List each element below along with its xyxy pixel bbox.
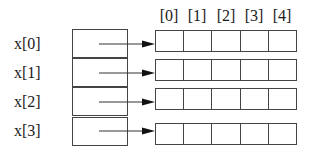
- array-row-2: [155, 88, 297, 110]
- array-row-0: [155, 30, 297, 52]
- array-row-3: [155, 123, 297, 145]
- array-cell: [212, 60, 240, 80]
- array-row-1: [155, 59, 297, 81]
- array-cell: [212, 124, 240, 144]
- array-cell: [184, 124, 212, 144]
- array-cell: [269, 60, 296, 80]
- row-label-2: x[2]: [14, 93, 54, 111]
- array-cell: [156, 124, 184, 144]
- array-cell: [156, 31, 184, 51]
- array-cell: [269, 31, 296, 51]
- arrow-icon: [99, 69, 155, 77]
- row-label-0: x[0]: [14, 35, 54, 53]
- array-cell: [241, 60, 269, 80]
- row-label-3: x[3]: [14, 122, 54, 140]
- array-cell: [184, 89, 212, 109]
- row-label-1: x[1]: [14, 64, 54, 82]
- array-cell: [269, 89, 296, 109]
- array-cell: [156, 60, 184, 80]
- column-label-4: [4]: [268, 7, 296, 25]
- array-cell: [184, 60, 212, 80]
- column-label-1: [1]: [183, 7, 211, 25]
- array-cell: [212, 89, 240, 109]
- arrow-icon: [99, 40, 155, 48]
- array-cell: [212, 31, 240, 51]
- column-label-3: [3]: [240, 7, 268, 25]
- column-label-2: [2]: [212, 7, 240, 25]
- array-cell: [269, 124, 296, 144]
- arrow-icon: [99, 98, 155, 106]
- array-cell: [241, 31, 269, 51]
- column-label-0: [0]: [155, 7, 183, 25]
- array-of-pointers-diagram: [0] [1] [2] [3] [4] x[0] x[1] x[2] x[3]: [0, 0, 313, 153]
- array-cell: [241, 124, 269, 144]
- array-cell: [156, 89, 184, 109]
- array-cell: [184, 31, 212, 51]
- array-cell: [241, 89, 269, 109]
- arrow-icon: [99, 127, 155, 135]
